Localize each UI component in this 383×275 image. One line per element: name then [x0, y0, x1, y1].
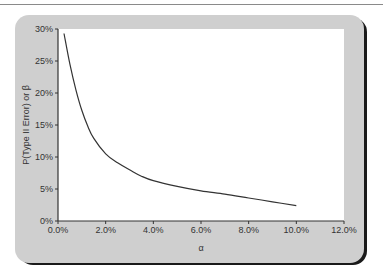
x-axis-title: α — [198, 243, 203, 253]
x-axis-ticks: 0.0%2.0%4.0%6.0%8.0%10.0%12.0% — [48, 221, 357, 235]
chart-svg: 0%5%10%15%20%25%30% 0.0%2.0%4.0%6.0%8.0%… — [0, 0, 383, 275]
y-tick-label: 5% — [40, 184, 53, 194]
y-axis-ticks: 0%5%10%15%20%25%30% — [35, 24, 58, 226]
x-tick-label: 2.0% — [95, 225, 116, 235]
axes — [58, 29, 344, 221]
y-tick-label: 25% — [35, 56, 53, 66]
y-tick-label: 30% — [35, 24, 53, 34]
y-tick-label: 20% — [35, 88, 53, 98]
x-tick-label: 4.0% — [143, 225, 164, 235]
x-tick-label: 8.0% — [238, 225, 259, 235]
y-tick-label: 10% — [35, 152, 53, 162]
x-tick-label: 6.0% — [191, 225, 212, 235]
y-axis-title: P(Type II Error) or β — [21, 85, 31, 165]
x-tick-label: 0.0% — [48, 225, 69, 235]
beta-curve — [64, 34, 296, 206]
x-tick-label: 12.0% — [331, 225, 357, 235]
y-tick-label: 15% — [35, 120, 53, 130]
x-tick-label: 10.0% — [284, 225, 310, 235]
